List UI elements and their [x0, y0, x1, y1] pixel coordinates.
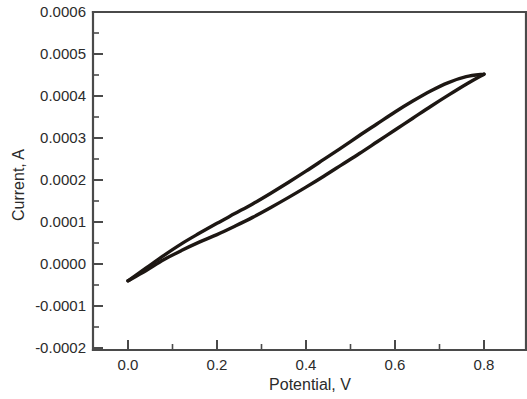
- x-tick-label: 0.2: [207, 356, 228, 373]
- y-tick-label: 0.0001: [40, 213, 86, 230]
- y-axis-tick-labels: 0.0006 0.0005 0.0004 0.0003 0.0002 0.000…: [35, 3, 86, 356]
- x-tick-label: 0.0: [118, 356, 139, 373]
- y-tick-label: 0.0003: [40, 129, 86, 146]
- x-tick-label: 0.6: [385, 356, 406, 373]
- cyclic-voltammogram-figure: 0.0006 0.0005 0.0004 0.0003 0.0002 0.000…: [0, 0, 527, 399]
- y-axis-title: Current, A: [10, 149, 27, 221]
- x-axis-title: Potential, V: [269, 376, 351, 393]
- y-tick-label: 0.0004: [40, 87, 86, 104]
- y-tick-label: 0.0005: [40, 45, 86, 62]
- x-tick-label: 0.8: [474, 356, 495, 373]
- y-tick-label: 0.0000: [40, 255, 86, 272]
- y-tick-label: 0.0006: [40, 3, 86, 20]
- y-tick-label: 0.0002: [40, 171, 86, 188]
- y-tick-label: -0.0001: [35, 297, 86, 314]
- x-tick-label: 0.4: [296, 356, 317, 373]
- chart-canvas: 0.0006 0.0005 0.0004 0.0003 0.0002 0.000…: [0, 0, 527, 399]
- y-tick-label: -0.0002: [35, 339, 86, 356]
